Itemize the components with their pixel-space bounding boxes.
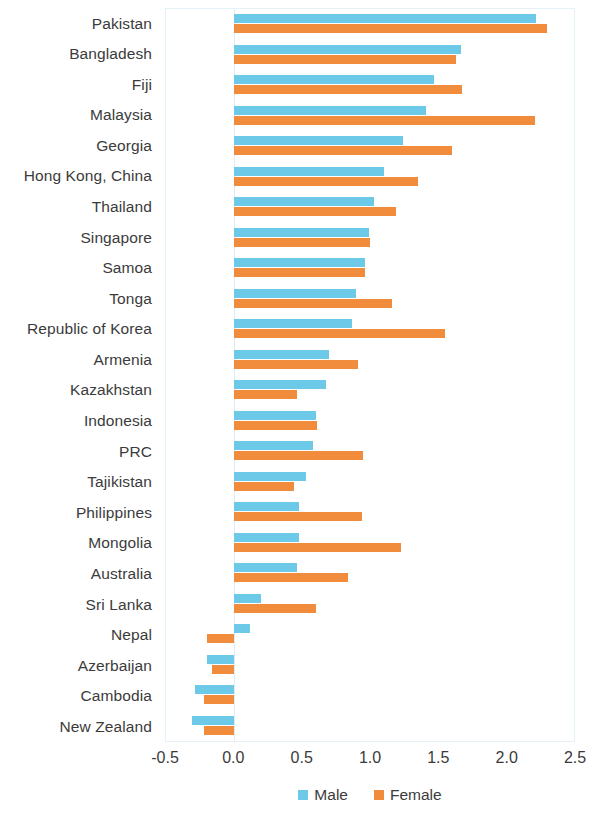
bar-female <box>234 360 358 369</box>
category-label: Fiji <box>0 69 158 100</box>
category-label: Australia <box>0 558 158 589</box>
value-axis: -0.50.00.51.01.52.02.5 <box>165 746 575 772</box>
bar-male <box>234 258 365 267</box>
bar-chart: PakistanBangladeshFijiMalaysiaGeorgiaHon… <box>0 0 597 813</box>
bar-female <box>234 604 316 613</box>
bar-female <box>234 85 462 94</box>
bar-group <box>166 406 574 437</box>
bar-male <box>234 197 374 206</box>
bar-group <box>166 436 574 467</box>
bar-group <box>166 131 574 162</box>
bar-female <box>234 177 418 186</box>
category-label: Pakistan <box>0 8 158 39</box>
x-tick-label: 0.5 <box>291 746 313 770</box>
bar-female <box>234 238 370 247</box>
category-label: Sri Lanka <box>0 589 158 620</box>
bar-male <box>234 14 536 23</box>
bar-female <box>234 329 445 338</box>
x-tick-label: -0.5 <box>151 746 179 770</box>
bar-group <box>166 680 574 711</box>
bar-male <box>234 319 352 328</box>
bar-male <box>234 75 434 84</box>
bar-group <box>166 40 574 71</box>
category-label: Bangladesh <box>0 39 158 70</box>
category-label: Nepal <box>0 620 158 651</box>
x-tick-label: 0.0 <box>222 746 244 770</box>
bar-group <box>166 558 574 589</box>
bar-female <box>234 299 392 308</box>
x-tick-label: 1.0 <box>359 746 381 770</box>
bar-male <box>234 350 329 359</box>
bar-group <box>166 101 574 132</box>
plot-area <box>165 8 575 742</box>
bar-female <box>234 543 401 552</box>
category-label: Azerbaijan <box>0 650 158 681</box>
bar-female <box>207 634 234 643</box>
bar-female <box>234 421 317 430</box>
bar-male <box>234 106 426 115</box>
category-label: New Zealand <box>0 711 158 742</box>
legend-swatch-icon <box>298 790 308 800</box>
legend-label: Male <box>314 787 348 803</box>
plot-inner <box>166 9 574 741</box>
bar-female <box>234 55 456 64</box>
bar-group <box>166 162 574 193</box>
category-label: Indonesia <box>0 406 158 437</box>
bar-group <box>166 253 574 284</box>
bar-female <box>234 116 535 125</box>
bar-group <box>166 589 574 620</box>
bar-male <box>234 289 356 298</box>
bar-female <box>234 207 396 216</box>
bar-male <box>234 441 313 450</box>
bar-male <box>234 472 306 481</box>
bar-group <box>166 192 574 223</box>
category-label: Samoa <box>0 253 158 284</box>
bar-group <box>166 497 574 528</box>
bar-group <box>166 467 574 498</box>
bar-group <box>166 9 574 40</box>
bar-male <box>234 45 461 54</box>
legend-item[interactable]: Female <box>374 787 442 803</box>
bar-male <box>195 685 234 694</box>
category-label: Hong Kong, China <box>0 161 158 192</box>
bar-female <box>204 726 234 735</box>
bar-female <box>204 695 234 704</box>
x-tick-label: 1.5 <box>427 746 449 770</box>
category-label: PRC <box>0 436 158 467</box>
bar-group <box>166 375 574 406</box>
bar-group <box>166 619 574 650</box>
bar-female <box>234 451 363 460</box>
bar-male <box>234 228 369 237</box>
bar-male <box>207 655 234 664</box>
legend-label: Female <box>390 787 442 803</box>
bar-male <box>234 380 326 389</box>
bar-group <box>166 70 574 101</box>
bar-female <box>234 512 362 521</box>
bar-group <box>166 345 574 376</box>
category-label: Kazakhstan <box>0 375 158 406</box>
category-label: Mongolia <box>0 528 158 559</box>
bar-female <box>234 146 452 155</box>
bar-male <box>192 716 234 725</box>
bar-male <box>234 533 299 542</box>
bar-group <box>166 314 574 345</box>
category-label: Philippines <box>0 497 158 528</box>
bar-male <box>234 167 384 176</box>
bar-male <box>234 411 316 420</box>
bar-female <box>234 573 348 582</box>
category-label: Tonga <box>0 283 158 314</box>
bar-female <box>234 390 297 399</box>
bar-male <box>234 563 297 572</box>
category-label: Armenia <box>0 344 158 375</box>
bar-group <box>166 528 574 559</box>
category-label: Malaysia <box>0 100 158 131</box>
bar-female <box>234 24 547 33</box>
category-axis: PakistanBangladeshFijiMalaysiaGeorgiaHon… <box>0 8 158 742</box>
chart-legend: MaleFemale <box>165 782 575 808</box>
category-label: Republic of Korea <box>0 314 158 345</box>
bar-male <box>234 502 299 511</box>
bar-male <box>234 136 403 145</box>
legend-item[interactable]: Male <box>298 787 348 803</box>
bar-female <box>212 665 234 674</box>
bar-female <box>234 482 294 491</box>
